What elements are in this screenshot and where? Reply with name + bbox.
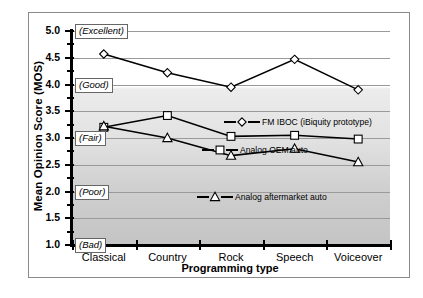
y-axis-minor-tick [67, 204, 74, 206]
y-axis-tick-label: 4.5 [30, 51, 60, 63]
x-axis-tick [199, 240, 201, 250]
x-axis-tick [136, 240, 138, 250]
legend-key-1: Analog OEM auto [202, 144, 308, 156]
legend-label-2: Analog aftermarket auto [235, 192, 327, 202]
x-axis-tick-label: Speech [260, 251, 330, 263]
y-axis-tick-label: 5.0 [30, 24, 60, 36]
data-point-1-2 [227, 132, 235, 140]
y-axis-minor-tick [67, 150, 74, 152]
y-axis-minor-tick [67, 70, 74, 72]
x-axis-line [70, 244, 391, 247]
y-axis-tick [65, 57, 74, 59]
legend-line-2 [197, 196, 209, 198]
y-axis-minor-tick [67, 43, 74, 45]
legend-key-0: FM IBOC (iBiquity prototype) [224, 116, 372, 128]
legend-key-2: Analog aftermarket auto [197, 191, 327, 203]
y-axis-tick [65, 191, 74, 193]
x-axis-tick [326, 240, 328, 250]
legend-label-0: FM IBOC (iBiquity prototype) [262, 117, 372, 127]
legend-marker-triangle-icon [209, 191, 221, 203]
data-point-0-3 [290, 55, 298, 63]
quality-label-fair: (Fair) [75, 131, 106, 146]
data-point-0-1 [163, 69, 171, 77]
data-point-0-4 [354, 86, 362, 94]
series-layer [72, 31, 390, 245]
quality-label-bad: (Bad) [75, 238, 106, 253]
data-point-1-3 [291, 131, 299, 139]
y-axis-minor-tick [67, 124, 74, 126]
y-axis-tick [65, 84, 74, 86]
x-axis-tick [390, 240, 392, 250]
legend-marker-square-icon [214, 144, 226, 156]
y-axis-tick [65, 217, 74, 219]
legend-line-1 [202, 149, 214, 151]
data-point-0-0 [100, 50, 108, 58]
y-axis-tick-label: 1.0 [30, 238, 60, 250]
y-axis-tick [65, 164, 74, 166]
y-axis-minor-tick [67, 97, 74, 99]
legend-marker-diamond-icon [236, 116, 248, 128]
data-point-1-1 [164, 112, 172, 120]
y-axis-minor-tick [67, 231, 74, 233]
y-axis-tick-label: 3.0 [30, 131, 60, 143]
legend-line-0 [224, 121, 236, 123]
plot-area [72, 31, 390, 245]
y-axis-tick-label: 1.5 [30, 211, 60, 223]
x-axis-title: Programming type [60, 262, 400, 274]
x-axis-tick-label: Country [132, 251, 202, 263]
quality-label-poor: (Poor) [75, 185, 109, 200]
y-axis-tick [65, 110, 74, 112]
x-axis-tick-label: Rock [196, 251, 266, 263]
x-axis-tick [72, 240, 74, 250]
legend-line-b-1 [226, 149, 238, 151]
y-axis-tick-label: 3.5 [30, 104, 60, 116]
y-axis-tick [65, 30, 74, 32]
legend-line-b-0 [248, 121, 260, 123]
y-axis-tick-label: 4.0 [30, 78, 60, 90]
legend-label-1: Analog OEM auto [240, 145, 308, 155]
y-axis-tick [65, 137, 74, 139]
y-axis-minor-tick [67, 177, 74, 179]
x-axis-tick-label: Voiceover [323, 251, 393, 263]
y-axis-tick-label: 2.0 [30, 185, 60, 197]
x-axis-tick [263, 240, 265, 250]
data-point-1-4 [354, 135, 362, 143]
quality-label-excellent: (Excellent) [75, 24, 128, 39]
chart-figure: Mean Opinion Score (MOS) Programming typ… [0, 0, 423, 298]
y-axis-tick-label: 2.5 [30, 158, 60, 170]
quality-label-good: (Good) [75, 78, 113, 93]
data-point-0-2 [227, 83, 235, 91]
legend-line-b-2 [221, 196, 233, 198]
